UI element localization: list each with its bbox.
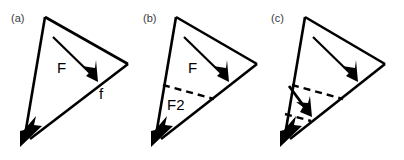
panel-a-label: (a) (11, 12, 24, 24)
figure-container: (a) F f (b) (0, 0, 404, 160)
panel-c-edge-hypotenuse (290, 64, 385, 139)
panel-b-vector-F-arrowhead (213, 60, 229, 82)
panel-a: (a) F f (11, 12, 128, 147)
panel-b-label-F2: F2 (167, 96, 185, 113)
panel-a-vector-F-arrowhead (82, 60, 98, 82)
panel-b-label-F: F (188, 59, 197, 76)
panel-c-label: (c) (271, 12, 284, 24)
panel-c-dashed-projection-upper (292, 85, 343, 99)
panel-c-vector-F-shaft (313, 37, 352, 75)
panel-c-vector-F-arrowhead (342, 60, 358, 82)
panel-a-label-F: F (57, 59, 66, 76)
panel-b: (b) F F2 (143, 12, 257, 147)
panel-b-label: (b) (143, 12, 156, 24)
physics-diagram: (a) F f (b) (0, 0, 404, 160)
panel-c: (c) (271, 12, 385, 147)
panel-a-label-f: f (99, 85, 104, 102)
panel-a-edge-hypotenuse (30, 64, 128, 139)
